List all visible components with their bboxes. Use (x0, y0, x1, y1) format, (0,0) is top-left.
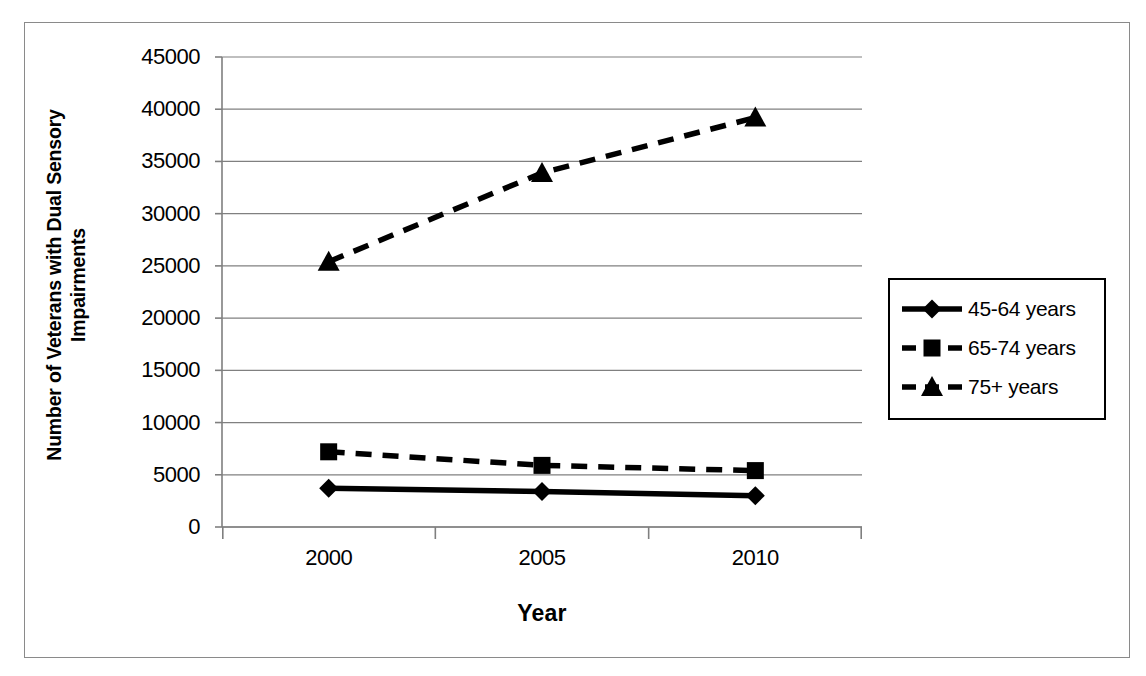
chart-figure: Number of Veterans with Dual Sensory Imp… (0, 0, 1146, 676)
y-tick-label-5000: 5000 (100, 464, 200, 486)
plot-area (222, 57, 862, 527)
y-tick-label-15000: 15000 (100, 359, 200, 381)
series-45-64-years (319, 479, 765, 505)
y-tick-label-10000: 10000 (100, 412, 200, 434)
series-75-years (318, 107, 767, 271)
y-tick-label-35000: 35000 (100, 150, 200, 172)
y-axis-title-line-2: Impairments (67, 228, 91, 342)
data-point-65-74-years-2010 (747, 462, 764, 479)
legend-label: 45-64 years (968, 297, 1076, 321)
series-line (329, 118, 756, 262)
legend-item-75-years[interactable]: 75+ years (890, 370, 1108, 404)
legend-item-65-74-years[interactable]: 65-74 years (890, 331, 1108, 365)
y-tick-label-25000: 25000 (100, 255, 200, 277)
plot-svg (222, 57, 862, 527)
y-axis-tick-labels: 4500040000350003000025000200001500010000… (95, 0, 200, 676)
data-point-75-years-2005 (531, 162, 553, 182)
y-axis-title: Number of Veterans with Dual Sensory Imp… (32, 50, 102, 520)
series-layer (318, 107, 767, 506)
legend-label: 65-74 years (968, 336, 1076, 360)
x-tick-label-2005: 2005 (482, 547, 602, 569)
gridlines (222, 57, 862, 527)
data-point-65-74-years-2005 (534, 457, 551, 474)
data-point-45-64-years-2000 (319, 479, 338, 498)
x-axis-tick-labels: 200020052010 (222, 547, 862, 581)
marker-square (924, 340, 941, 357)
legend: 45-64 years65-74 years75+ years (888, 278, 1106, 420)
x-tick-label-2000: 2000 (269, 547, 389, 569)
y-axis-title-line-1: Number of Veterans with Dual Sensory (43, 109, 67, 460)
x-axis-title: Year (222, 600, 862, 627)
legend-swatch-square-icon (900, 333, 964, 363)
data-point-45-64-years-2010 (746, 486, 765, 505)
marker-diamond (923, 300, 942, 319)
data-point-45-64-years-2005 (533, 482, 552, 501)
legend-item-45-64-years[interactable]: 45-64 years (890, 292, 1108, 326)
legend-swatch-diamond-icon (900, 294, 964, 324)
y-tick-label-40000: 40000 (100, 98, 200, 120)
marker-triangle (921, 376, 943, 396)
series-65-74-years (320, 443, 764, 479)
legend-swatch-triangle-icon (900, 372, 964, 402)
y-tick-label-20000: 20000 (100, 307, 200, 329)
x-tick-label-2010: 2010 (695, 547, 815, 569)
legend-label: 75+ years (968, 375, 1058, 399)
y-tick-label-45000: 45000 (100, 46, 200, 68)
data-point-65-74-years-2000 (320, 443, 337, 460)
y-tick-label-0: 0 (100, 516, 200, 538)
y-tick-label-30000: 30000 (100, 203, 200, 225)
